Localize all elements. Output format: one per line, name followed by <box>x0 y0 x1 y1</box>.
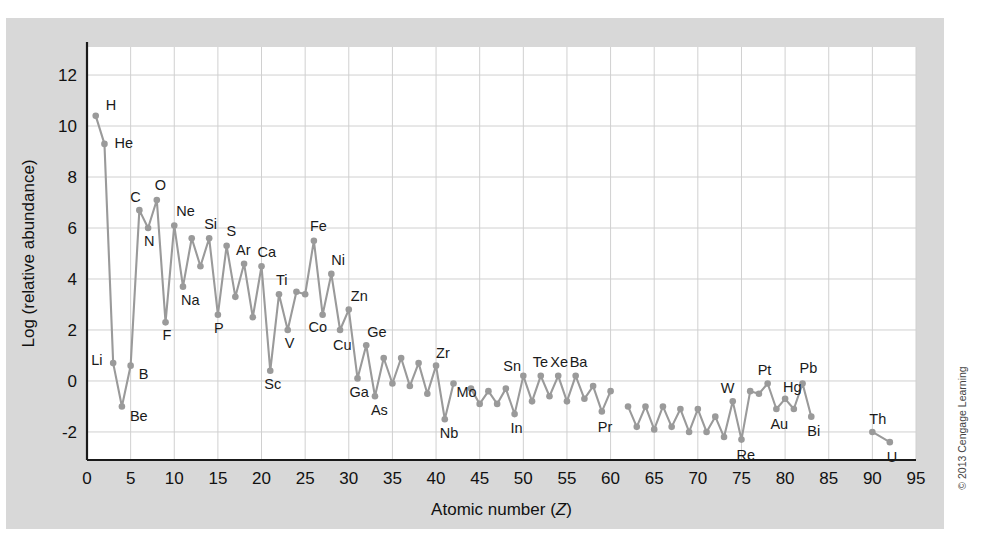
data-point[interactable] <box>250 314 257 321</box>
data-point[interactable] <box>441 416 448 423</box>
data-point[interactable] <box>572 373 579 380</box>
data-point[interactable] <box>485 388 492 395</box>
data-point[interactable] <box>284 327 291 334</box>
data-point[interactable] <box>677 406 684 413</box>
data-point[interactable] <box>119 403 126 410</box>
data-point[interactable] <box>197 263 204 270</box>
data-point[interactable] <box>511 411 518 418</box>
data-point[interactable] <box>712 413 719 420</box>
data-point[interactable] <box>738 436 745 443</box>
data-point[interactable] <box>537 373 544 380</box>
data-point[interactable] <box>293 288 300 295</box>
data-point[interactable] <box>215 311 222 318</box>
element-label: Ti <box>276 272 288 288</box>
data-point[interactable] <box>328 271 335 278</box>
data-point[interactable] <box>808 413 815 420</box>
element-label: Bi <box>807 423 820 439</box>
data-point[interactable] <box>267 367 274 374</box>
data-point[interactable] <box>223 243 230 250</box>
data-point[interactable] <box>433 362 440 369</box>
data-point[interactable] <box>311 237 318 244</box>
data-point[interactable] <box>607 388 614 395</box>
data-point[interactable] <box>372 393 379 400</box>
data-point[interactable] <box>529 398 536 405</box>
data-point[interactable] <box>136 207 143 214</box>
data-point[interactable] <box>110 360 117 367</box>
y-tick-label: 8 <box>68 168 77 187</box>
data-point[interactable] <box>180 283 187 290</box>
data-point[interactable] <box>276 291 283 298</box>
x-tick-label: 40 <box>427 469 446 488</box>
data-point[interactable] <box>773 406 780 413</box>
data-point[interactable] <box>660 403 667 410</box>
data-point[interactable] <box>869 429 876 436</box>
data-point[interactable] <box>380 355 387 362</box>
element-label: Pr <box>598 419 613 435</box>
data-point[interactable] <box>642 403 649 410</box>
data-point[interactable] <box>258 263 265 270</box>
data-point[interactable] <box>590 383 597 390</box>
data-point[interactable] <box>503 385 510 392</box>
data-point[interactable] <box>345 306 352 313</box>
data-point[interactable] <box>162 319 169 326</box>
data-point[interactable] <box>127 362 134 369</box>
element-label: Ne <box>176 203 195 219</box>
x-tick-label: 90 <box>863 469 882 488</box>
data-point[interactable] <box>424 390 431 397</box>
data-point[interactable] <box>555 373 562 380</box>
data-point[interactable] <box>319 311 326 318</box>
element-label: N <box>144 233 154 249</box>
data-point[interactable] <box>633 424 640 431</box>
data-point[interactable] <box>686 429 693 436</box>
element-label: Te <box>533 354 548 370</box>
data-point[interactable] <box>625 403 632 410</box>
data-point[interactable] <box>747 388 754 395</box>
element-label: Pt <box>758 362 772 378</box>
data-point[interactable] <box>668 424 675 431</box>
data-point[interactable] <box>354 375 361 382</box>
data-point[interactable] <box>564 398 571 405</box>
data-point[interactable] <box>791 406 798 413</box>
data-point[interactable] <box>154 197 161 204</box>
data-point[interactable] <box>721 434 728 441</box>
data-point[interactable] <box>494 401 501 408</box>
data-point[interactable] <box>476 401 483 408</box>
element-label: Nb <box>440 425 459 441</box>
data-point[interactable] <box>764 380 771 387</box>
data-point[interactable] <box>302 291 309 298</box>
data-point[interactable] <box>92 113 99 120</box>
data-point[interactable] <box>651 426 658 433</box>
element-label: B <box>139 366 149 382</box>
x-tick-label: 15 <box>208 469 227 488</box>
data-point[interactable] <box>337 327 344 334</box>
data-point[interactable] <box>241 260 248 267</box>
element-label: Re <box>736 447 755 463</box>
data-point[interactable] <box>145 225 152 232</box>
data-point[interactable] <box>101 141 108 148</box>
data-point[interactable] <box>729 398 736 405</box>
element-label: U <box>887 449 897 465</box>
data-point[interactable] <box>782 396 789 403</box>
data-point[interactable] <box>695 406 702 413</box>
data-point[interactable] <box>887 439 894 446</box>
data-point[interactable] <box>188 235 195 242</box>
data-point[interactable] <box>389 380 396 387</box>
data-point[interactable] <box>756 390 763 397</box>
element-label: Ba <box>570 354 589 370</box>
y-tick-label: 6 <box>68 219 77 238</box>
data-point[interactable] <box>398 355 405 362</box>
element-label: Ga <box>350 384 370 400</box>
element-label: Li <box>91 352 102 368</box>
data-point[interactable] <box>363 342 370 349</box>
data-point[interactable] <box>415 360 422 367</box>
data-point[interactable] <box>232 294 239 301</box>
data-point[interactable] <box>206 235 213 242</box>
element-label: Na <box>181 292 200 308</box>
data-point[interactable] <box>407 383 414 390</box>
data-point[interactable] <box>703 429 710 436</box>
data-point[interactable] <box>546 393 553 400</box>
data-point[interactable] <box>171 222 178 229</box>
data-point[interactable] <box>599 408 606 415</box>
abundance-chart: 05101520253035404550556065707580859095-2… <box>0 0 986 551</box>
data-point[interactable] <box>581 396 588 403</box>
